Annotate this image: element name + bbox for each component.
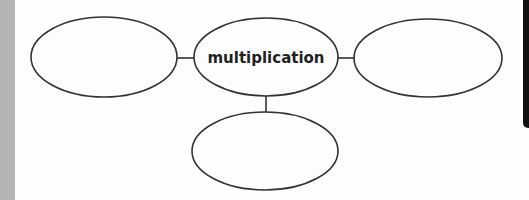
node-bottom[interactable] [192,112,338,190]
node-center[interactable]: multiplication [194,18,338,96]
node-left[interactable] [31,17,177,97]
node-right[interactable] [354,19,502,97]
node-center-label: multiplication [207,49,324,67]
